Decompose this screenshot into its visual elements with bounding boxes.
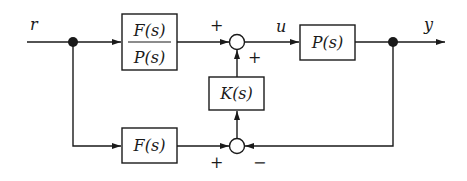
top-sum-plus-bottom: + [248,48,261,67]
feedforward-block: F(s) P(s) [122,14,177,70]
bottom-sum-plus-left: + [210,153,223,172]
top-sum-plus-left: + [210,16,223,35]
reference-filter-label: F(s) [133,136,166,155]
reference-filter-block: F(s) [122,128,177,163]
input-label-r: r [30,15,39,34]
reference-branch-wire [73,42,121,146]
plant-label: P(s) [311,33,343,52]
feedforward-denominator: P(s) [133,48,165,67]
bottom-summing-junction [230,139,245,154]
controller-block: K(s) [209,77,264,110]
bottom-sum-minus-right: − [253,153,266,172]
top-summing-junction [230,35,245,50]
control-label-u: u [276,17,286,36]
controller-label: K(s) [219,84,253,103]
feedforward-numerator: F(s) [133,21,166,40]
block-diagram: r F(s) P(s) + + u P(s) y F(s) + − K(s [0,0,467,181]
plant-block: P(s) [300,25,355,60]
output-label-y: y [423,15,434,34]
